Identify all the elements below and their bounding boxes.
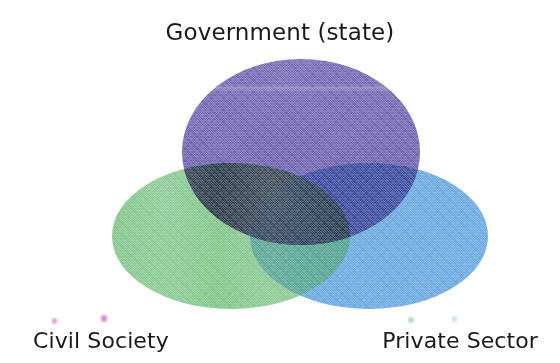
- venn-canvas: [0, 0, 560, 363]
- venn-label-private-sector: Private Sector: [382, 328, 538, 353]
- venn-diagram: Government (state) Civil Society Private…: [0, 0, 560, 363]
- venn-label-civil-society: Civil Society: [33, 328, 169, 353]
- venn-label-government: Government (state): [0, 19, 560, 45]
